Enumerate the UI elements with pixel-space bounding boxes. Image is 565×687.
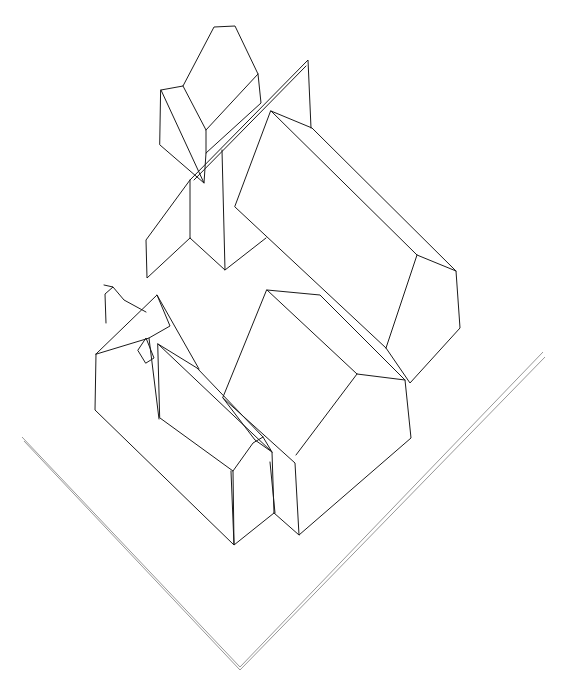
large-building-right xyxy=(235,111,460,383)
middle-long-building xyxy=(158,344,274,545)
isometric-building-sketch xyxy=(0,0,565,687)
front-right-building xyxy=(223,290,411,535)
window-icon xyxy=(138,338,154,363)
small-building-left xyxy=(95,285,234,545)
ground-corner-lines xyxy=(22,352,545,670)
tall-gable-wall xyxy=(146,60,311,278)
